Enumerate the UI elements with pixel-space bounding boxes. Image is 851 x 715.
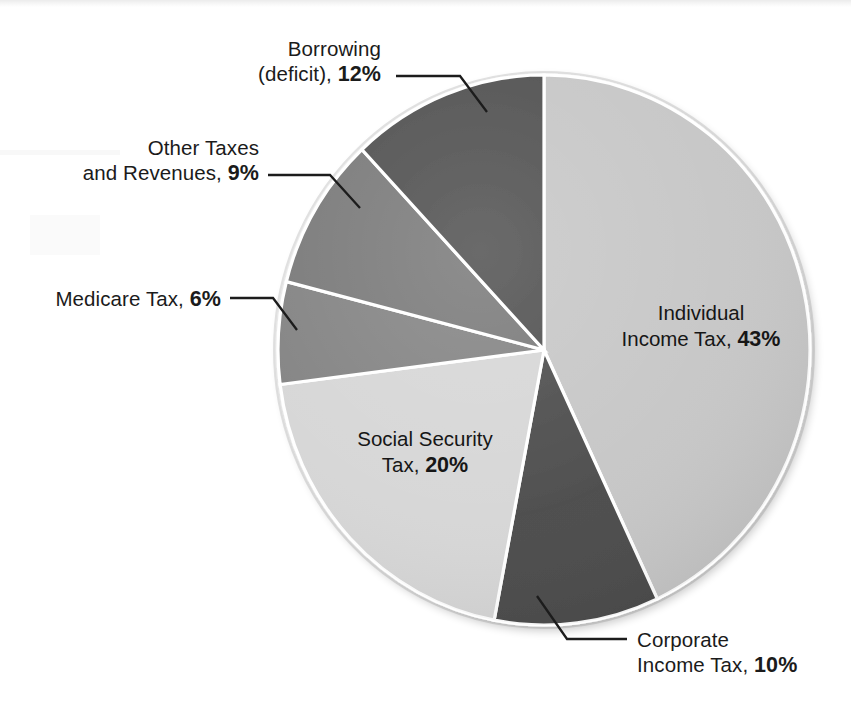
chart-page: Borrowing (deficit), 12% Other Taxes and…	[0, 0, 851, 715]
inner-social-security-pct: 20%	[425, 453, 468, 477]
callout-other-taxes-pct: 9%	[228, 161, 259, 185]
callout-corporate-line2: Income Tax,	[637, 653, 748, 676]
callout-medicare-pct: 6%	[190, 287, 221, 311]
inner-label-social-security-tax: Social Security Tax, 20%	[316, 426, 534, 478]
callout-borrowing-line1: Borrowing	[288, 37, 381, 60]
callout-other-taxes-line2: and Revenues,	[83, 161, 222, 184]
callout-corporate-line1: Corporate	[637, 628, 729, 651]
callout-label-other-taxes: Other Taxes and Revenues, 9%	[83, 135, 259, 186]
callout-borrowing-line2: (deficit),	[258, 62, 332, 85]
callout-borrowing-pct: 12%	[338, 62, 381, 86]
inner-individual-line2: Income Tax,	[622, 327, 732, 350]
pie-chart	[0, 0, 851, 715]
inner-individual-pct: 43%	[737, 327, 780, 351]
callout-medicare-line1: Medicare Tax,	[55, 287, 184, 310]
inner-label-individual-income-tax: Individual Income Tax, 43%	[586, 300, 816, 352]
callout-label-borrowing: Borrowing (deficit), 12%	[258, 36, 381, 87]
inner-social-security-line1: Social Security	[357, 427, 493, 450]
inner-individual-line1: Individual	[658, 301, 745, 324]
callout-other-taxes-line1: Other Taxes	[148, 136, 259, 159]
inner-social-security-line2: Tax,	[382, 453, 420, 476]
callout-label-corporate: Corporate Income Tax, 10%	[637, 627, 797, 678]
callout-corporate-pct: 10%	[754, 653, 797, 677]
callout-label-medicare: Medicare Tax, 6%	[55, 286, 221, 312]
